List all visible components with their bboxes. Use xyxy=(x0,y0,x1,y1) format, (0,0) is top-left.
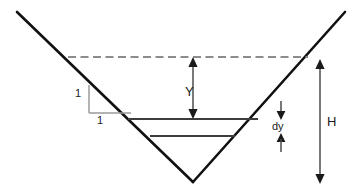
slope-horizontal-label: 1 xyxy=(97,115,103,126)
total-depth-H-dimension-arrow xyxy=(315,59,324,184)
total-depth-H-arrowhead-up xyxy=(315,59,324,69)
channel-wall-left-line xyxy=(17,12,193,182)
depth-Y-arrowhead-down xyxy=(188,109,197,119)
v-notch-channel-diagram: Y H dy 1 1 xyxy=(0,0,362,195)
total-depth-H-arrowhead-down xyxy=(315,174,324,184)
channel-wall-right-line xyxy=(193,12,345,182)
slope-vertical-label: 1 xyxy=(75,88,81,99)
channel-wall-group xyxy=(17,12,345,182)
total-depth-H-label: H xyxy=(327,115,336,128)
depth-Y-arrowhead-up xyxy=(188,57,197,67)
depth-Y-label: Y xyxy=(185,85,194,98)
element-dy-label: dy xyxy=(272,121,284,132)
diagram-canvas xyxy=(0,0,362,195)
element-dy-arrowhead-down xyxy=(277,111,286,120)
